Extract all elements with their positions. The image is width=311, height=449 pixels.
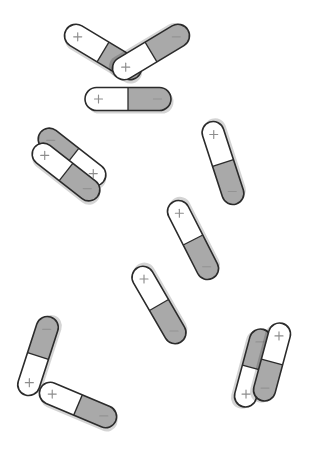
chain-top-rod[interactable] (198, 115, 249, 207)
magnet-canvas (0, 0, 311, 449)
triangle-bottom-rod[interactable] (85, 88, 174, 114)
south-pole-half (128, 88, 171, 111)
triangle-cluster (59, 17, 194, 113)
chain-bottom-rod[interactable] (127, 259, 193, 348)
bottom-left-vee (15, 311, 122, 435)
right-chain (127, 115, 250, 347)
vee-lower-rod[interactable] (35, 379, 123, 435)
bottom-right-pair (228, 320, 293, 412)
north-pole-half (85, 88, 128, 111)
magnet-scene (0, 0, 311, 449)
chain-middle-rod[interactable] (163, 193, 225, 283)
left-parallel-pair (26, 124, 112, 209)
